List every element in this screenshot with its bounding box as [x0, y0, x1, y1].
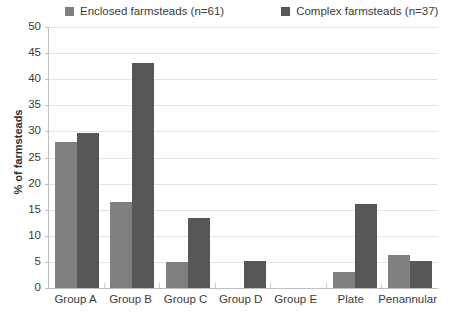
- bar-group-group-e: [271, 27, 327, 288]
- y-tick-0: [45, 288, 49, 289]
- y-tick-label-5: 5: [7, 256, 41, 268]
- y-tick-label-25: 25: [7, 152, 41, 164]
- bar-enclosed-group-a: [55, 142, 77, 288]
- y-tick-label-45: 45: [7, 47, 41, 59]
- bar-complex-group-a: [77, 133, 99, 288]
- y-tick-label-50: 50: [7, 21, 41, 33]
- x-label-penannular: Penannular: [378, 293, 437, 313]
- bar-groups: [49, 27, 438, 288]
- x-axis-labels: Group AGroup BGroup CGroup DGroup EPlate…: [48, 293, 437, 313]
- bar-group-penannular: [382, 27, 438, 288]
- legend-item-enclosed: Enclosed farmsteads (n=61): [64, 5, 224, 17]
- bar-complex-group-b: [132, 63, 154, 289]
- bar-group-plate: [327, 27, 383, 288]
- legend-label-complex: Complex farmsteads (n=37): [296, 5, 438, 17]
- x-label-group-e: Group E: [268, 293, 323, 313]
- bar-group-group-a: [49, 27, 105, 288]
- y-tick-label-10: 10: [7, 230, 41, 242]
- legend-swatch-enclosed: [64, 6, 75, 17]
- bar-complex-group-c: [188, 218, 210, 288]
- y-tick-label-0: 0: [7, 282, 41, 294]
- bar-chart: Enclosed farmsteads (n=61) Complex farms…: [0, 0, 451, 321]
- y-tick-label-15: 15: [7, 204, 41, 216]
- bar-enclosed-group-b: [110, 202, 132, 288]
- gridline-0: [49, 288, 438, 289]
- bar-enclosed-penannular: [388, 255, 410, 288]
- x-label-group-c: Group C: [158, 293, 213, 313]
- y-tick-label-20: 20: [7, 178, 41, 190]
- y-tick-label-30: 30: [7, 125, 41, 137]
- bar-group-group-b: [105, 27, 161, 288]
- plot-area: 05101520253035404550: [48, 27, 437, 288]
- bar-group-group-d: [216, 27, 272, 288]
- bar-group-group-c: [160, 27, 216, 288]
- bar-enclosed-group-c: [166, 262, 188, 288]
- legend-label-enclosed: Enclosed farmsteads (n=61): [80, 5, 224, 17]
- legend-swatch-complex: [280, 6, 291, 17]
- bar-complex-penannular: [410, 261, 432, 288]
- bar-enclosed-plate: [333, 272, 355, 288]
- x-label-group-b: Group B: [103, 293, 158, 313]
- bar-complex-plate: [355, 204, 377, 288]
- y-tick-label-40: 40: [7, 73, 41, 85]
- chart-legend: Enclosed farmsteads (n=61) Complex farms…: [0, 2, 451, 20]
- legend-item-complex: Complex farmsteads (n=37): [280, 5, 438, 17]
- bar-complex-group-d: [244, 261, 266, 288]
- x-label-group-a: Group A: [48, 293, 103, 313]
- x-label-plate: Plate: [323, 293, 378, 313]
- x-label-group-d: Group D: [213, 293, 268, 313]
- y-tick-label-35: 35: [7, 99, 41, 111]
